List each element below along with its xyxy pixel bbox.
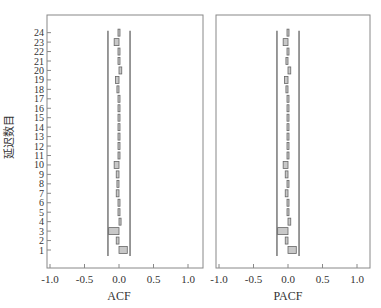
lag-tick-label: 11 (34, 150, 44, 161)
pacf-bar-lag-20 (288, 67, 291, 74)
lag-tick-label: 4 (39, 216, 44, 227)
acf-bar-lag-8 (117, 180, 119, 187)
acf-x-tick-label: -0.5 (76, 273, 94, 285)
pacf-plot-frame (216, 15, 370, 268)
acf-bar-lag-16 (118, 105, 120, 112)
acf-bar-lag-5 (118, 209, 120, 216)
pacf-x-tick-label: -0.5 (245, 273, 263, 285)
lag-tick-label: 15 (34, 112, 44, 123)
lag-tick-label: 9 (39, 169, 44, 180)
acf-x-tick-label: -1.0 (41, 273, 59, 285)
acf-bar-lag-15 (118, 114, 120, 121)
pacf-bar-lag-14 (287, 124, 289, 131)
pacf-bar-lag-23 (283, 39, 288, 46)
pacf-bar-lag-24 (287, 29, 289, 36)
pacf-bar-lag-3 (278, 228, 288, 235)
pacf-bar-lag-21 (286, 58, 288, 65)
acf-bar-lag-12 (118, 143, 120, 150)
pacf-x-tick-label: 0.5 (316, 273, 330, 285)
lag-tick-label: 17 (34, 93, 44, 104)
lag-tick-label: 7 (39, 188, 44, 199)
acf-bar-lag-19 (116, 76, 119, 83)
pacf-x-tick-label: -1.0 (210, 273, 228, 285)
lag-tick-label: 3 (39, 226, 44, 237)
pacf-bar-lag-13 (287, 133, 289, 140)
pacf-bar-lag-4 (288, 218, 291, 225)
lag-tick-label: 24 (34, 27, 44, 38)
lag-tick-label: 22 (34, 46, 44, 57)
pacf-x-axis-title: PACF (274, 289, 303, 303)
lag-tick-label: 5 (39, 207, 44, 218)
acf-bar-lag-2 (116, 237, 119, 244)
pacf-bar-lag-12 (287, 143, 289, 150)
pacf-x-tick-label: 1.0 (350, 273, 364, 285)
acf-x-axis-title: ACF (107, 289, 131, 303)
pacf-bar-lag-8 (287, 180, 289, 187)
acf-bar-lag-17 (118, 95, 120, 102)
acf-bar-lag-10 (114, 161, 119, 168)
acf-pacf-chart: -1.0-0.50.00.51.0ACF12345678910111213141… (0, 0, 381, 308)
acf-x-tick-label: 1.0 (181, 273, 195, 285)
pacf-bar-lag-19 (285, 76, 288, 83)
acf-bar-lag-3 (109, 228, 119, 235)
acf-bar-lag-20 (119, 67, 122, 74)
pacf-bar-lag-1 (288, 247, 296, 254)
acf-bar-lag-1 (119, 247, 127, 254)
acf-bar-lag-13 (118, 133, 120, 140)
lag-tick-label: 16 (34, 103, 44, 114)
acf-bar-lag-4 (119, 218, 121, 225)
lag-tick-label: 18 (34, 84, 44, 95)
pacf-bar-lag-18 (286, 86, 288, 93)
acf-bar-lag-18 (117, 86, 119, 93)
acf-bar-lag-21 (118, 58, 120, 65)
lag-tick-label: 14 (34, 122, 44, 133)
y-axis-title: 延迟数目 (3, 115, 16, 159)
pacf-x-tick-label: 0.0 (281, 273, 295, 285)
acf-bar-lag-9 (116, 171, 119, 178)
lag-tick-label: 23 (34, 37, 44, 48)
pacf-bar-lag-5 (287, 209, 289, 216)
acf-bar-lag-11 (118, 152, 120, 159)
lag-tick-label: 6 (39, 197, 44, 208)
lag-tick-label: 21 (34, 56, 44, 67)
pacf-bar-lag-15 (287, 114, 289, 121)
acf-x-tick-label: 0.0 (112, 273, 126, 285)
pacf-bar-lag-7 (285, 190, 288, 197)
lag-tick-label: 13 (34, 131, 44, 142)
pacf-bar-lag-10 (283, 161, 288, 168)
pacf-bar-lag-16 (287, 105, 289, 112)
pacf-bar-lag-11 (287, 152, 289, 159)
acf-bar-lag-24 (118, 29, 120, 36)
pacf-bar-lag-17 (287, 95, 289, 102)
acf-bar-lag-7 (116, 190, 119, 197)
lag-tick-label: 10 (34, 159, 44, 170)
acf-bar-lag-23 (114, 39, 119, 46)
pacf-bar-lag-2 (285, 237, 288, 244)
lag-tick-label: 1 (39, 245, 44, 256)
lag-tick-label: 12 (34, 141, 44, 152)
acf-x-tick-label: 0.5 (147, 273, 161, 285)
acf-bar-lag-22 (118, 48, 120, 55)
lag-tick-label: 19 (34, 74, 44, 85)
pacf-bar-lag-9 (285, 171, 288, 178)
pacf-bar-lag-22 (287, 48, 289, 55)
lag-tick-label: 8 (39, 178, 44, 189)
lag-tick-label: 20 (34, 65, 44, 76)
pacf-bar-lag-6 (287, 199, 289, 206)
acf-plot-frame (47, 15, 203, 268)
acf-bar-lag-14 (118, 124, 120, 131)
acf-bar-lag-6 (118, 199, 120, 206)
lag-tick-label: 2 (39, 235, 44, 246)
